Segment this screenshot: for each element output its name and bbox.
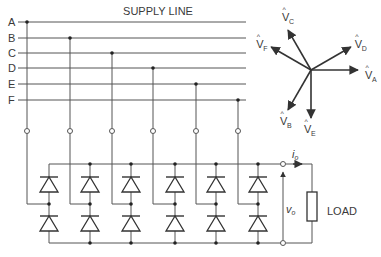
bus-node xyxy=(256,241,260,245)
six-phase-rectifier-diagram: SUPPLY LINE ABCDEF LOADiovo V^AV^DV^CV^F… xyxy=(0,0,381,257)
line-label-e: E xyxy=(8,78,15,90)
junction-dot xyxy=(151,66,155,70)
bus-node xyxy=(88,162,92,166)
supply-line-title: SUPPLY LINE xyxy=(123,5,193,17)
phase-feed xyxy=(27,134,49,205)
bus-node xyxy=(173,162,177,166)
svg-text:E: E xyxy=(311,130,316,137)
terminal xyxy=(236,129,241,134)
terminal xyxy=(25,129,30,134)
load-resistor-icon xyxy=(307,192,317,221)
line-label-f: F xyxy=(8,94,15,106)
diode-icon xyxy=(40,177,58,192)
diode-icon xyxy=(81,216,99,231)
bus-node xyxy=(214,241,218,245)
diode-icon xyxy=(249,177,267,192)
bus-node xyxy=(88,241,92,245)
phase-feed xyxy=(112,134,131,205)
line-label-c: C xyxy=(8,47,16,59)
phase-feed xyxy=(196,134,216,205)
output-terminal-negative xyxy=(281,241,286,246)
line-label-b: B xyxy=(8,32,15,44)
junction-dot xyxy=(194,82,198,86)
diode-icon xyxy=(207,216,225,231)
phase-feed xyxy=(153,134,175,205)
terminal xyxy=(110,129,115,134)
mid-node xyxy=(214,202,218,206)
mid-node xyxy=(47,202,51,206)
svg-text:D: D xyxy=(362,45,367,52)
diode-icon xyxy=(81,177,99,192)
junction-dot xyxy=(25,20,29,24)
phase-feed xyxy=(70,134,90,205)
load-circuit: LOADiovo xyxy=(281,148,358,246)
line-label-a: A xyxy=(8,16,16,28)
diode-icon xyxy=(166,177,184,192)
phase-feed xyxy=(238,134,258,205)
mid-node xyxy=(129,202,133,206)
diode-icon xyxy=(207,177,225,192)
phasor-label-d: V^D xyxy=(355,33,367,52)
voltage-label: vo xyxy=(286,203,296,216)
bus-node xyxy=(129,241,133,245)
current-label: io xyxy=(292,148,298,161)
phasor-d xyxy=(311,47,351,70)
phasor-label-e: V^E xyxy=(304,118,316,137)
junction-dot xyxy=(236,98,240,102)
diode-icon xyxy=(40,216,58,231)
terminal xyxy=(151,129,156,134)
supply-lines: ABCDEF xyxy=(8,16,258,204)
phasor-b xyxy=(288,70,311,110)
diode-icon xyxy=(166,216,184,231)
terminal xyxy=(194,129,199,134)
phasor-label-b: V^B xyxy=(280,110,292,129)
diode-icon xyxy=(122,216,140,231)
bus-node xyxy=(129,162,133,166)
terminal xyxy=(68,129,73,134)
mid-node xyxy=(256,202,260,206)
svg-text:C: C xyxy=(289,18,294,25)
line-label-d: D xyxy=(8,62,16,74)
bus-node xyxy=(173,241,177,245)
phasor-diagram: V^AV^DV^CV^FV^BV^E xyxy=(256,6,377,137)
output-terminal-positive xyxy=(281,162,286,167)
mid-node xyxy=(173,202,177,206)
junction-dot xyxy=(68,36,72,40)
svg-text:A: A xyxy=(372,76,377,83)
load-label: LOAD xyxy=(327,205,357,217)
phasor-label-a: V^A xyxy=(365,64,377,83)
mid-node xyxy=(88,202,92,206)
phasor-label-c: V^C xyxy=(282,6,294,25)
bus-node xyxy=(214,162,218,166)
bus-node xyxy=(256,162,260,166)
diode-icon xyxy=(249,216,267,231)
phasor-label-f: V^F xyxy=(256,33,267,52)
junction-dot xyxy=(110,51,114,55)
svg-text:B: B xyxy=(287,122,292,129)
svg-text:F: F xyxy=(263,45,267,52)
diode-icon xyxy=(122,177,140,192)
